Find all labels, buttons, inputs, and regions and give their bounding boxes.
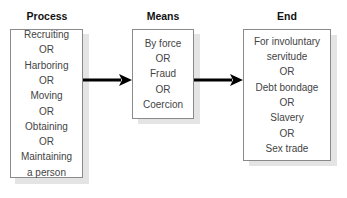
or-separator: OR (39, 134, 54, 149)
process-box: Recruiting OR Harboring OR Moving OR Obt… (10, 29, 83, 178)
or-separator: OR (39, 104, 54, 119)
end-item: servitude (267, 49, 308, 64)
or-separator: OR (280, 64, 295, 79)
end-item: Sex trade (266, 141, 309, 156)
means-item: Coercion (143, 97, 183, 112)
process-item: Obtaining (25, 119, 68, 134)
or-separator: OR (280, 126, 295, 141)
end-box: For involuntary servitude OR Debt bondag… (243, 29, 331, 161)
process-item: Harboring (25, 58, 69, 73)
or-separator: OR (156, 82, 171, 97)
end-title: End (243, 10, 331, 22)
or-separator: OR (39, 73, 54, 88)
process-item: a person (27, 165, 66, 180)
process-item: Moving (30, 88, 62, 103)
or-separator: OR (39, 42, 54, 57)
process-item: Maintaining (21, 149, 72, 164)
or-separator: OR (156, 51, 171, 66)
process-title: Process (10, 10, 84, 22)
end-item: For involuntary (254, 34, 320, 49)
end-item: Debt bondage (256, 80, 319, 95)
or-separator: OR (280, 95, 295, 110)
means-item: Fraud (150, 66, 176, 81)
means-box: By force OR Fraud OR Coercion (132, 29, 194, 119)
end-item: Slavery (270, 110, 303, 125)
arrow-right-icon (194, 72, 244, 88)
means-item: By force (145, 36, 182, 51)
means-title: Means (132, 10, 194, 22)
arrow-right-icon (83, 72, 133, 88)
process-item: Recruiting (24, 27, 69, 42)
